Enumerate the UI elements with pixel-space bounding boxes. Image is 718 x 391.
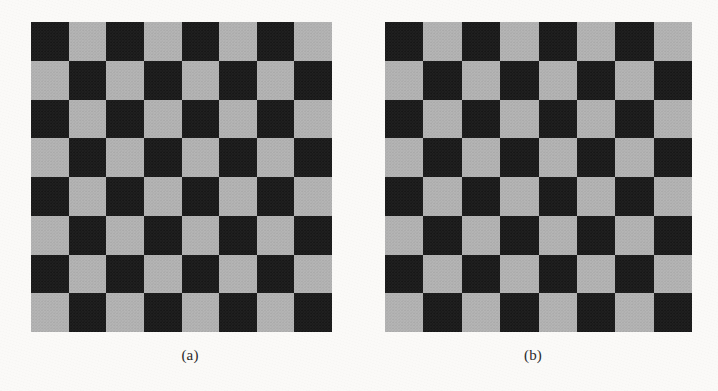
checker-cell (69, 255, 107, 294)
checker-cell (654, 100, 692, 139)
checker-cell (385, 138, 423, 177)
checker-cell (423, 22, 461, 61)
checker-cell (182, 177, 220, 216)
checker-cell (106, 61, 144, 100)
checker-cell (577, 138, 615, 177)
checker-cell (257, 293, 295, 332)
checker-cell (423, 100, 461, 139)
checker-cell (577, 293, 615, 332)
checker-cell (615, 22, 653, 61)
checker-cell (385, 255, 423, 294)
checker-cell (219, 255, 257, 294)
checker-cell (257, 22, 295, 61)
checker-cell (31, 177, 69, 216)
checker-cell (31, 22, 69, 61)
checker-cell (31, 100, 69, 139)
checker-cell (615, 293, 653, 332)
checker-cell (423, 138, 461, 177)
checker-cell (106, 255, 144, 294)
checker-cell (500, 61, 538, 100)
checker-cell (385, 61, 423, 100)
checker-cell (654, 138, 692, 177)
checker-cell (615, 138, 653, 177)
checker-cell (219, 100, 257, 139)
checker-cell (144, 177, 182, 216)
checker-cell (219, 216, 257, 255)
checker-cell (219, 61, 257, 100)
checker-cell (294, 100, 332, 139)
checker-cell (500, 293, 538, 332)
checker-cell (577, 22, 615, 61)
checker-cell (654, 293, 692, 332)
checker-cell (654, 255, 692, 294)
checker-cell (654, 216, 692, 255)
checker-cell (294, 138, 332, 177)
checker-cell (615, 177, 653, 216)
checker-cell (257, 216, 295, 255)
checker-cell (294, 22, 332, 61)
checker-cell (294, 177, 332, 216)
checker-cell (219, 293, 257, 332)
checker-cell (69, 61, 107, 100)
checker-cell (106, 138, 144, 177)
checker-cell (539, 61, 577, 100)
checker-cell (539, 293, 577, 332)
checker-cell (106, 22, 144, 61)
checker-cell (257, 138, 295, 177)
figure-root: (a) (b) (0, 0, 718, 391)
checker-cell (31, 216, 69, 255)
checker-cell (182, 216, 220, 255)
checker-cell (500, 138, 538, 177)
checker-cell (500, 100, 538, 139)
checkerboard-b (385, 22, 692, 332)
checker-cell (539, 216, 577, 255)
checker-cell (219, 138, 257, 177)
checker-cell (462, 100, 500, 139)
checker-cell (462, 216, 500, 255)
checker-cell (69, 138, 107, 177)
checker-cell (462, 61, 500, 100)
checker-cell (144, 138, 182, 177)
checker-cell (423, 293, 461, 332)
checker-cell (69, 177, 107, 216)
checker-cell (462, 177, 500, 216)
checker-cell (577, 255, 615, 294)
checker-cell (500, 216, 538, 255)
checker-cell (257, 100, 295, 139)
checker-cell (385, 293, 423, 332)
checker-cell (423, 255, 461, 294)
checker-cell (423, 61, 461, 100)
checker-cell (294, 255, 332, 294)
checker-cell (539, 138, 577, 177)
checker-cell (106, 177, 144, 216)
checker-cell (577, 177, 615, 216)
checker-cell (144, 216, 182, 255)
checker-cell (500, 22, 538, 61)
checker-cell (257, 255, 295, 294)
checker-cell (144, 61, 182, 100)
checker-cell (69, 216, 107, 255)
checker-cell (144, 100, 182, 139)
checker-cell (539, 177, 577, 216)
checker-cell (182, 138, 220, 177)
checker-cell (31, 138, 69, 177)
checker-cell (106, 216, 144, 255)
checker-cell (539, 100, 577, 139)
checker-cell (577, 61, 615, 100)
checker-cell (654, 22, 692, 61)
checker-cell (182, 61, 220, 100)
checker-cell (69, 100, 107, 139)
checker-cell (577, 216, 615, 255)
checker-cell (294, 216, 332, 255)
checker-cell (539, 22, 577, 61)
checker-cell (423, 216, 461, 255)
panel-a-caption: (a) (150, 348, 230, 363)
checker-cell (182, 22, 220, 61)
checker-cell (182, 255, 220, 294)
checker-cell (577, 100, 615, 139)
checker-cell (219, 177, 257, 216)
checker-cell (385, 22, 423, 61)
checker-cell (257, 61, 295, 100)
checker-cell (385, 100, 423, 139)
checker-cell (257, 177, 295, 216)
